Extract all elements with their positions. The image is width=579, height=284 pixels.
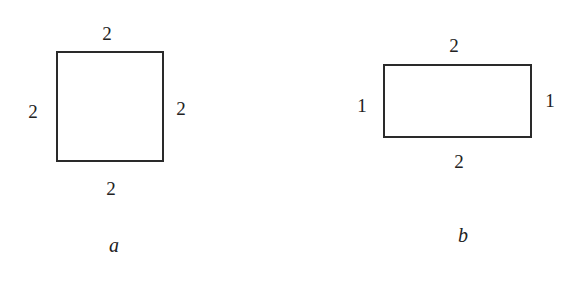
diagram-canvas: 2 2 2 2 a 2 1 1 2 b [0,0,579,284]
square-shape [56,51,164,162]
rectangle-left-side-label: 1 [357,96,367,115]
square-bottom-side-label: 2 [106,179,116,198]
rectangle-right-side-label: 1 [545,91,555,110]
rectangle-top-side-label: 2 [449,36,459,55]
square-right-side-label: 2 [176,99,186,118]
rectangle-shape [383,64,532,138]
rectangle-bottom-side-label: 2 [454,152,464,171]
square-top-side-label: 2 [102,24,112,43]
figure-b-caption: b [458,225,468,245]
square-left-side-label: 2 [28,102,38,121]
figure-a-caption: a [109,235,119,255]
